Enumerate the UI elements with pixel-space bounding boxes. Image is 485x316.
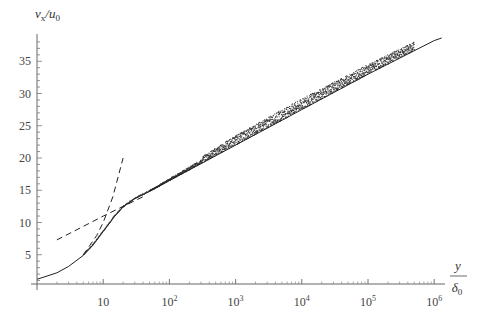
data-point (311, 95, 312, 96)
y-tick-label: 30 (19, 87, 31, 101)
x-tick-label: 102 (161, 294, 177, 309)
data-point (231, 139, 232, 140)
data-point (262, 120, 263, 121)
data-point (254, 130, 255, 131)
data-point (346, 77, 347, 78)
data-point (263, 122, 264, 123)
data-point (275, 119, 276, 120)
x-axis-title-numerator: y (453, 258, 461, 273)
data-point (374, 67, 375, 68)
data-point (339, 86, 340, 87)
data-point (299, 109, 300, 110)
data-point (292, 106, 293, 107)
data-point (375, 63, 376, 64)
data-point (372, 69, 373, 70)
data-point (391, 57, 392, 58)
data-point (361, 75, 362, 76)
data-point (383, 62, 384, 63)
x-tick-label: 10 (97, 295, 109, 309)
data-point (323, 94, 324, 95)
data-point (237, 137, 238, 138)
data-point (368, 67, 369, 68)
data-point (319, 92, 320, 93)
data-point (268, 124, 269, 125)
data-point (237, 139, 238, 140)
data-point (366, 67, 367, 68)
data-point (319, 94, 320, 95)
data-point (387, 54, 388, 55)
data-point (227, 142, 228, 143)
data-point (236, 137, 237, 138)
data-point (279, 113, 280, 114)
data-point (323, 91, 324, 92)
data-point (252, 133, 253, 134)
data-point (267, 126, 268, 127)
data-point (408, 46, 409, 47)
data-point (336, 82, 337, 83)
data-point (304, 102, 305, 103)
data-point (328, 93, 329, 94)
data-point (337, 83, 338, 84)
data-point (381, 61, 382, 62)
data-point (374, 65, 375, 66)
data-point (229, 146, 230, 147)
data-point (300, 105, 301, 106)
y-tick-label: 15 (19, 183, 31, 197)
data-point (414, 44, 415, 45)
data-point (327, 90, 328, 91)
data-point (193, 165, 194, 166)
data-point (286, 109, 287, 110)
data-point (321, 96, 322, 97)
data-point (374, 61, 375, 62)
data-point (225, 143, 226, 144)
data-point (255, 128, 256, 129)
data-point (242, 132, 243, 133)
data-point (366, 66, 367, 67)
data-point (266, 124, 267, 125)
data-point (330, 86, 331, 87)
data-point (397, 50, 398, 51)
data-point (237, 136, 238, 137)
data-point (229, 139, 230, 140)
data-point (378, 64, 379, 65)
data-point (331, 91, 332, 92)
data-point (315, 96, 316, 97)
data-point (308, 100, 309, 101)
data-point (331, 89, 332, 90)
data-point (411, 46, 412, 47)
data-point (222, 144, 223, 145)
data-point (372, 62, 373, 63)
data-point (247, 129, 248, 130)
data-point (357, 72, 358, 73)
data-point (205, 156, 206, 157)
data-point (355, 71, 356, 72)
data-point (283, 116, 284, 117)
data-point (210, 155, 211, 156)
data-point (294, 103, 295, 104)
data-point (351, 78, 352, 79)
data-point (215, 150, 216, 151)
data-point (250, 135, 251, 136)
data-point (410, 45, 411, 46)
data-point (326, 87, 327, 88)
data-point (329, 90, 330, 91)
data-point (349, 76, 350, 77)
data-point (390, 57, 391, 58)
data-point (245, 131, 246, 132)
data-point (300, 99, 301, 100)
data-point (405, 49, 406, 50)
data-point (259, 130, 260, 131)
data-point (285, 114, 286, 115)
data-point (342, 84, 343, 85)
data-point (412, 43, 413, 44)
data-point (395, 52, 396, 53)
data-point (271, 121, 272, 122)
data-point (277, 119, 278, 120)
data-point (323, 89, 324, 90)
data-point (234, 137, 235, 138)
data-point (322, 92, 323, 93)
x-tick-label: 106 (426, 294, 442, 309)
data-point (235, 142, 236, 143)
data-point (356, 73, 357, 74)
data-point (308, 98, 309, 99)
